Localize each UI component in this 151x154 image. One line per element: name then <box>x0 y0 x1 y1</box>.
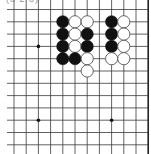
black-stone[interactable] <box>57 53 69 65</box>
black-stone[interactable] <box>106 16 118 28</box>
white-stone[interactable] <box>118 16 130 28</box>
white-stone[interactable] <box>81 65 93 77</box>
white-stone[interactable] <box>106 53 118 65</box>
black-stone[interactable] <box>57 16 69 28</box>
white-stone[interactable] <box>118 40 130 52</box>
stones-layer <box>57 16 130 77</box>
black-stone[interactable] <box>106 28 118 40</box>
star-point-icon <box>110 118 114 122</box>
star-point-icon <box>37 45 41 49</box>
white-stone[interactable] <box>69 28 81 40</box>
white-stone[interactable] <box>69 40 81 52</box>
black-stone[interactable] <box>106 40 118 52</box>
white-stone[interactable] <box>81 16 93 28</box>
white-stone[interactable] <box>81 53 93 65</box>
black-stone[interactable] <box>57 40 69 52</box>
go-board[interactable] <box>0 0 151 154</box>
white-stone[interactable] <box>118 28 130 40</box>
black-stone[interactable] <box>81 28 93 40</box>
black-stone[interactable] <box>69 53 81 65</box>
black-stone[interactable] <box>57 28 69 40</box>
star-point-icon <box>37 118 41 122</box>
white-stone[interactable] <box>118 53 130 65</box>
white-stone[interactable] <box>69 16 81 28</box>
black-stone[interactable] <box>81 40 93 52</box>
